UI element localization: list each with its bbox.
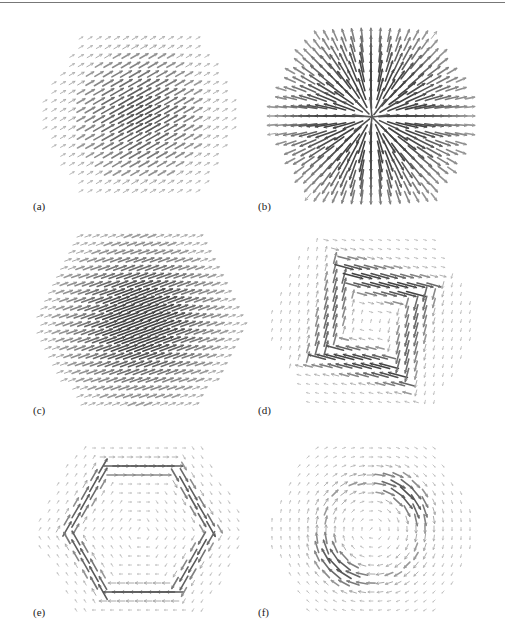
vector-arrow — [323, 570, 330, 577]
quiver-plot-f — [0, 0, 505, 642]
vector-arrow — [348, 562, 358, 568]
vector-arrow — [404, 506, 410, 516]
vector-arrow — [340, 552, 348, 560]
vector-arrow — [404, 562, 410, 568]
vector-arrow — [412, 481, 419, 488]
vector-arrow — [394, 498, 402, 506]
panel-label-f: (f) — [258, 606, 269, 618]
vector-arrow — [338, 560, 351, 570]
vector-arrow — [402, 496, 412, 509]
